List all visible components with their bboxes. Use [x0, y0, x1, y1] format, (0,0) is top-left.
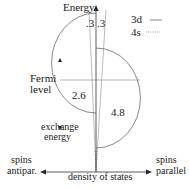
dos-label: density of states — [68, 171, 133, 182]
band-4s-parallel — [96, 10, 106, 170]
value-4s-right: .3 — [97, 17, 106, 29]
left-label-1: spins — [11, 154, 32, 165]
exchange-label-2: energy — [44, 131, 71, 142]
value-3d-right: 4.8 — [111, 106, 125, 118]
right-arrow-icon — [146, 170, 152, 175]
legend-4s-label: 4s — [131, 26, 141, 38]
value-3d-left: 2.6 — [72, 89, 86, 101]
band-4s-antiparallel — [89, 10, 96, 170]
density-of-states-diagram: Energy .3 .3 3d 4s Fermi level 2.6 4.8 e… — [0, 0, 189, 188]
energy-label: Energy — [63, 1, 95, 13]
right-label-2: parallel — [156, 165, 186, 176]
left-arrow-icon — [40, 170, 46, 175]
exchange-up-arrow-icon — [58, 58, 62, 62]
left-label-2: antipar. — [7, 165, 37, 176]
legend-3d-label: 3d — [131, 13, 143, 25]
diagram-canvas: Energy .3 .3 3d 4s Fermi level 2.6 4.8 e… — [0, 0, 189, 188]
value-4s-left: .3 — [86, 17, 95, 29]
fermi-label-2: level — [30, 83, 51, 95]
right-label-1: spins — [156, 154, 177, 165]
